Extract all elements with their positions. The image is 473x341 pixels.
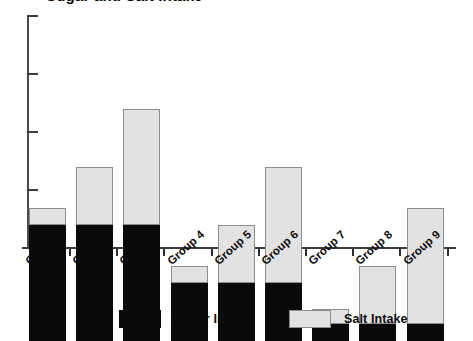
x-axis-tick-2 bbox=[163, 249, 165, 256]
bar-segment-salt[interactable] bbox=[123, 109, 160, 225]
bar-group[interactable] bbox=[76, 93, 113, 341]
bar-group[interactable] bbox=[218, 93, 255, 341]
bar-group[interactable] bbox=[171, 93, 208, 341]
x-axis-tick-6 bbox=[352, 249, 354, 256]
x-axis-tick-8 bbox=[447, 249, 449, 256]
bar-group[interactable] bbox=[123, 93, 160, 341]
legend-swatch-salt bbox=[289, 310, 331, 328]
legend-swatch-sugar bbox=[119, 310, 161, 328]
bar-chart: Sugar and Salt Intake Group 1Group 2Grou… bbox=[0, 0, 473, 341]
bar-group[interactable] bbox=[312, 93, 349, 341]
bar-group[interactable] bbox=[359, 93, 396, 341]
y-axis-tick-3 bbox=[27, 15, 38, 17]
legend-label: Salt Intake bbox=[344, 312, 408, 326]
bar-segment-salt[interactable] bbox=[76, 167, 113, 225]
x-axis-tick-5 bbox=[305, 249, 307, 256]
x-axis-tick-1 bbox=[116, 249, 118, 256]
x-axis-tick-3 bbox=[211, 249, 213, 256]
bar-segment-salt[interactable] bbox=[171, 266, 208, 283]
y-axis-tick-2 bbox=[27, 73, 38, 75]
legend-item-sugar-intake[interactable]: Sugar Intake bbox=[119, 310, 250, 328]
chart-legend: Sugar IntakeSalt Intake bbox=[0, 306, 473, 336]
bar-group[interactable] bbox=[29, 93, 66, 341]
x-axis-tick-4 bbox=[258, 249, 260, 256]
bar-group[interactable] bbox=[407, 93, 444, 341]
x-axis-tick-7 bbox=[399, 249, 401, 256]
bar-group[interactable] bbox=[265, 93, 302, 341]
plot-area: Group 1Group 2Group 3Group 4Group 5Group… bbox=[0, 0, 473, 341]
legend-label: Sugar Intake bbox=[174, 312, 250, 326]
legend-item-salt-intake[interactable]: Salt Intake bbox=[289, 310, 408, 328]
x-axis-tick-0 bbox=[69, 249, 71, 256]
bar-segment-salt[interactable] bbox=[29, 208, 66, 225]
bar-segment-salt[interactable] bbox=[265, 167, 302, 283]
